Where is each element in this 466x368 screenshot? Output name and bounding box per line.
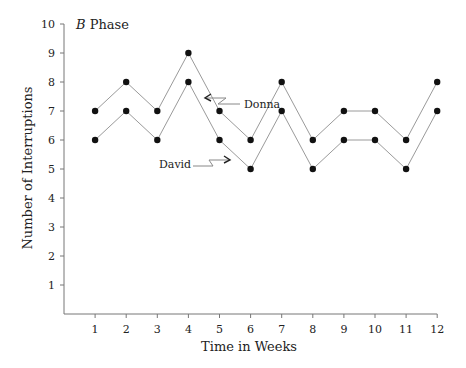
x-tick-label: 6: [247, 323, 254, 336]
y-tick-label: 4: [48, 192, 55, 205]
data-point: [123, 79, 129, 85]
data-point: [341, 137, 347, 143]
x-tick-label: 8: [309, 323, 316, 336]
data-point: [247, 137, 253, 143]
data-point: [372, 137, 378, 143]
donna-label: Donna: [244, 98, 281, 111]
donna-arrow-line: [207, 98, 240, 104]
series-line: [95, 53, 437, 140]
y-tick-label: 10: [41, 18, 55, 31]
david-arrow-line: [193, 160, 229, 166]
data-point: [434, 79, 440, 85]
series-david: [92, 79, 441, 172]
data-point: [154, 108, 160, 114]
x-tick-label: 1: [92, 323, 99, 336]
data-point: [403, 166, 409, 172]
data-point: [92, 137, 98, 143]
y-tick-label: 1: [48, 279, 55, 292]
axes: 12345678910123456789101112: [41, 18, 444, 336]
x-tick-label: 7: [278, 323, 285, 336]
x-tick-label: 3: [154, 323, 161, 336]
x-tick-label: 4: [185, 323, 192, 336]
data-point: [279, 79, 285, 85]
data-point: [185, 50, 191, 56]
data-point: [310, 166, 316, 172]
y-axis-label: Number of Interruptions: [20, 86, 35, 249]
david-annotation: David: [159, 156, 230, 171]
data-point: [216, 108, 222, 114]
y-tick-label: 8: [48, 76, 55, 89]
x-tick-label: 10: [368, 323, 382, 336]
annotations: DonnaDavid: [159, 94, 281, 171]
x-tick-label: 12: [430, 323, 444, 336]
y-tick-label: 3: [48, 221, 55, 234]
chart-title: B Phase: [75, 17, 129, 32]
y-tick-label: 6: [48, 134, 55, 147]
data-point: [247, 166, 253, 172]
data-series: [92, 50, 441, 172]
y-tick-label: 2: [48, 250, 55, 263]
y-tick-label: 9: [48, 47, 55, 60]
data-point: [92, 108, 98, 114]
donna-annotation: Donna: [205, 94, 281, 111]
data-point: [403, 137, 409, 143]
y-tick-label: 7: [48, 105, 55, 118]
data-point: [372, 108, 378, 114]
x-tick-label: 5: [216, 323, 223, 336]
x-tick-label: 11: [399, 323, 413, 336]
data-point: [341, 108, 347, 114]
y-tick-label: 5: [48, 163, 55, 176]
data-point: [154, 137, 160, 143]
x-tick-label: 2: [123, 323, 130, 336]
data-point: [310, 137, 316, 143]
series-donna: [92, 50, 441, 143]
line-chart: 12345678910123456789101112 DonnaDavid B …: [0, 0, 466, 368]
series-line: [95, 82, 437, 169]
data-point: [185, 79, 191, 85]
data-point: [434, 108, 440, 114]
x-axis-label: Time in Weeks: [201, 339, 297, 354]
david-label: David: [159, 158, 191, 171]
x-tick-label: 9: [340, 323, 347, 336]
data-point: [216, 137, 222, 143]
data-point: [123, 108, 129, 114]
